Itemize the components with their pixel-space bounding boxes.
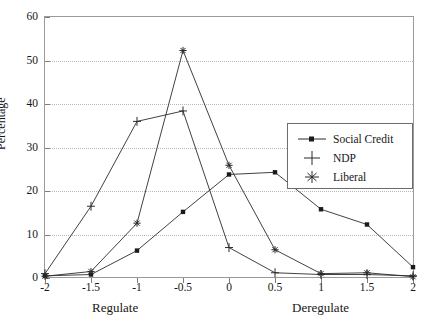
data-point-marker xyxy=(227,172,231,176)
chart-container: 0102030405060 -2-1.5-1-0.500.511.52 Perc… xyxy=(0,0,430,320)
plus-marker-icon xyxy=(297,151,327,165)
asterisk-marker-icon xyxy=(297,170,327,184)
square-dot-marker-icon xyxy=(297,132,327,146)
data-point-marker xyxy=(411,265,415,269)
data-point-marker xyxy=(135,248,139,252)
legend-item-ndp: NDP xyxy=(288,148,412,167)
data-point-marker xyxy=(181,210,185,214)
legend-item-social-credit: Social Credit xyxy=(288,129,412,148)
legend-label-liberal: Liberal xyxy=(327,171,366,183)
data-point-marker xyxy=(365,222,369,226)
data-point-marker xyxy=(273,170,277,174)
legend-label-ndp: NDP xyxy=(327,152,356,164)
legend-label-social-credit: Social Credit xyxy=(327,133,393,145)
legend-item-liberal: Liberal xyxy=(288,167,412,186)
legend: Social Credit NDP Liberal xyxy=(287,123,413,189)
data-point-marker xyxy=(319,207,323,211)
